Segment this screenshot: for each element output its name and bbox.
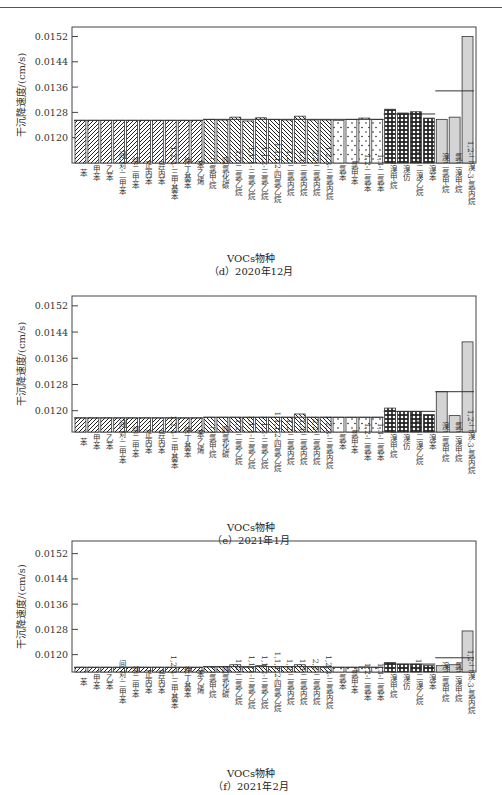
svg-text:苯乙烯: 苯乙烯 (195, 429, 204, 455)
svg-text:0.0144: 0.0144 (35, 56, 68, 67)
svg-text:苯乙烯: 苯乙烯 (195, 160, 204, 186)
svg-text:0.0128: 0.0128 (35, 379, 68, 390)
svg-text:1,3-二氯丙烷: 1,3-二氯丙烷 (298, 150, 307, 197)
bar-chart-d: 0.01200.01280.01360.01440.0152干沉降速度/(cm/… (0, 22, 502, 267)
svg-text:溴仿: 溴仿 (402, 673, 411, 691)
svg-text:1,1,2-三氯乙烷: 1,1,2-三氯乙烷 (260, 655, 269, 710)
svg-text:乙苯: 乙苯 (105, 165, 114, 182)
svg-text:氯甲苯: 氯甲苯 (350, 160, 359, 186)
svg-text:氯苯: 氯苯 (337, 164, 346, 182)
svg-text:0.0120: 0.0120 (35, 649, 68, 660)
svg-text:间,对-二甲苯: 间,对-二甲苯 (118, 151, 127, 197)
svg-text:1,3-二氯丙烷: 1,3-二氯丙烷 (298, 659, 307, 706)
svg-text:1,2-二氯苯: 1,2-二氯苯 (363, 663, 372, 702)
svg-text:1,1,1,2-四氯乙烷: 1,1,1,2-四氯乙烷 (273, 412, 282, 474)
svg-text:氯二溴甲烷: 氯二溴甲烷 (453, 152, 462, 194)
svg-text:1,2-二溴乙烷: 1,2-二溴乙烷 (414, 150, 423, 197)
svg-text:二氯甲烷: 二氯甲烷 (208, 157, 217, 190)
caption-f: （f）2021年2月 (0, 780, 502, 793)
svg-text:正丙苯: 正丙苯 (143, 161, 152, 186)
bar-chart-e: 0.01200.01280.01360.01440.0152干沉降速度/(cm/… (0, 291, 502, 536)
svg-text:0.0128: 0.0128 (35, 624, 68, 635)
svg-text:0.0136: 0.0136 (35, 599, 68, 610)
svg-text:0.0152: 0.0152 (35, 31, 68, 42)
svg-text:邻二甲苯: 邻二甲苯 (131, 425, 140, 459)
svg-text:1,3-二氯苯: 1,3-二氯苯 (376, 663, 385, 702)
svg-text:间,对-二甲苯: 间,对-二甲苯 (118, 420, 127, 466)
svg-text:溴仿: 溴仿 (402, 433, 411, 451)
svg-text:溴仿: 溴仿 (402, 164, 411, 182)
svg-text:1,2-二氯乙烷: 1,2-二氯乙烷 (234, 150, 243, 197)
svg-text:2,2-二氯丙烷: 2,2-二氯丙烷 (311, 150, 320, 197)
svg-text:溴苯: 溴苯 (427, 164, 436, 182)
svg-text:苯: 苯 (79, 437, 88, 447)
svg-text:1,3-二氯苯: 1,3-二氯苯 (376, 423, 385, 462)
chart-panel-f: 0.01200.01280.01360.01440.0152干沉降速度/(cm/… (0, 536, 502, 781)
svg-text:甲苯: 甲苯 (92, 434, 101, 451)
svg-text:0.0136: 0.0136 (35, 353, 68, 364)
bar-chart-f: 0.01200.01280.01360.01440.0152干沉降速度/(cm/… (0, 536, 502, 781)
svg-text:氯苯: 氯苯 (337, 673, 346, 691)
svg-text:1,2-二氯丙烷: 1,2-二氯丙烷 (285, 419, 294, 466)
svg-text:1,2-二溴乙烷: 1,2-二溴乙烷 (414, 659, 423, 706)
svg-text:溴苯: 溴苯 (427, 433, 436, 451)
svg-text:氯二溴甲烷: 氯二溴甲烷 (453, 421, 462, 463)
svg-text:邻二甲苯: 邻二甲苯 (131, 665, 140, 699)
svg-text:1,2-二氯苯: 1,2-二氯苯 (363, 154, 372, 193)
svg-text:1,2-二氯乙烷: 1,2-二氯乙烷 (234, 659, 243, 706)
svg-text:0.0136: 0.0136 (35, 82, 68, 93)
svg-text:乙苯: 乙苯 (105, 434, 114, 451)
svg-text:四氯化碳: 四氯化碳 (221, 666, 230, 699)
svg-text:1,1,1,2-四氯乙烷: 1,1,1,2-四氯乙烷 (273, 652, 282, 714)
svg-text:苯: 苯 (79, 677, 88, 687)
svg-text:氯甲苯: 氯甲苯 (350, 429, 359, 455)
svg-text:1,2-二溴-3-氯丙烷: 1,2-二溴-3-氯丙烷 (466, 141, 475, 206)
svg-text:苯: 苯 (79, 168, 88, 178)
svg-text:溴二氯甲烷: 溴二氯甲烷 (440, 421, 449, 463)
svg-text:1,1,1-三氯乙烷: 1,1,1-三氯乙烷 (247, 415, 256, 470)
svg-text:甲苯: 甲苯 (92, 165, 101, 182)
svg-text:1,2-二氯丙烷: 1,2-二氯丙烷 (285, 150, 294, 197)
svg-text:1,2-二溴乙烷: 1,2-二溴乙烷 (414, 419, 423, 466)
svg-text:仲丁基苯: 仲丁基苯 (182, 156, 191, 190)
svg-text:2,2-二氯丙烷: 2,2-二氯丙烷 (311, 659, 320, 706)
svg-text:溴二氯甲烷: 溴二氯甲烷 (440, 661, 449, 703)
svg-text:0.0120: 0.0120 (35, 405, 68, 416)
svg-text:正丙苯: 正丙苯 (143, 670, 152, 695)
svg-text:0.0152: 0.0152 (35, 548, 68, 559)
svg-text:仲丁基苯: 仲丁基苯 (182, 425, 191, 459)
svg-text:1,3-二氯丙烷: 1,3-二氯丙烷 (298, 419, 307, 466)
svg-text:苯乙烯: 苯乙烯 (195, 669, 204, 695)
svg-text:二氯甲烷: 二氯甲烷 (208, 426, 217, 459)
svg-text:0.0120: 0.0120 (35, 132, 68, 143)
svg-text:0.0128: 0.0128 (35, 107, 68, 118)
svg-text:乙苯: 乙苯 (105, 674, 114, 691)
svg-text:四氯化碳: 四氯化碳 (221, 426, 230, 459)
svg-text:仲丁基苯: 仲丁基苯 (182, 665, 191, 699)
svg-text:0.0152: 0.0152 (35, 300, 68, 311)
svg-text:1,1,2-三氯乙烷: 1,1,2-三氯乙烷 (260, 415, 269, 470)
svg-text:间,对-二甲苯: 间,对-二甲苯 (118, 660, 127, 706)
xlabel-e: VOCs物种 (0, 521, 502, 534)
xlabel-d: VOCs物种 (0, 252, 502, 265)
svg-text:1,2,4-三甲基苯: 1,2,4-三甲基苯 (169, 146, 178, 201)
svg-text:1,2,4-三甲基苯: 1,2,4-三甲基苯 (169, 655, 178, 710)
chart-panel-d: 0.01200.01280.01360.01440.0152干沉降速度/(cm/… (0, 22, 502, 267)
svg-text:氯苯: 氯苯 (337, 433, 346, 451)
svg-text:1,2,3-三氯丙烷: 1,2,3-三氯丙烷 (324, 415, 333, 470)
svg-text:干沉降速度/(cm/s): 干沉降速度/(cm/s) (15, 322, 27, 407)
svg-text:1,2,4-三甲基苯: 1,2,4-三甲基苯 (169, 415, 178, 470)
svg-text:异丙苯: 异丙苯 (156, 430, 165, 455)
svg-text:1,2,3-三氯丙烷: 1,2,3-三氯丙烷 (324, 655, 333, 710)
svg-text:异丙苯: 异丙苯 (156, 670, 165, 695)
svg-text:1,2-二溴-3-氯丙烷: 1,2-二溴-3-氯丙烷 (466, 650, 475, 715)
svg-text:氯甲苯: 氯甲苯 (350, 669, 359, 695)
svg-text:异丙苯: 异丙苯 (156, 161, 165, 186)
svg-text:0.0144: 0.0144 (35, 573, 68, 584)
svg-text:二溴甲烷: 二溴甲烷 (389, 666, 398, 699)
svg-text:1,1,1-三氯乙烷: 1,1,1-三氯乙烷 (247, 146, 256, 201)
svg-text:干沉降速度/(cm/s): 干沉降速度/(cm/s) (15, 53, 27, 138)
page-header-rule (0, 7, 502, 8)
svg-text:干沉降速度/(cm/s): 干沉降速度/(cm/s) (15, 564, 27, 649)
svg-text:1,2-二溴-3-氯丙烷: 1,2-二溴-3-氯丙烷 (466, 410, 475, 475)
